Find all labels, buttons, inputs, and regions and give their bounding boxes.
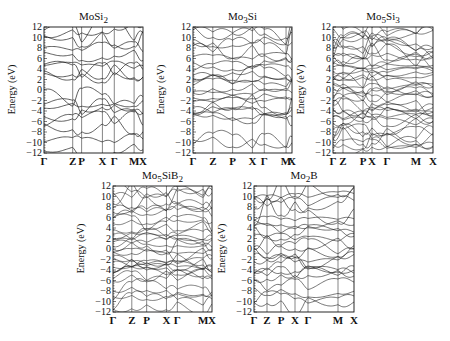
k-point-label: M	[333, 315, 343, 326]
k-point-label: X	[291, 315, 299, 326]
plot-frame	[193, 27, 292, 153]
y-tick-label: −6	[20, 117, 42, 127]
energy-band	[113, 214, 212, 231]
y-tick-label: 4	[309, 64, 331, 74]
y-tick-label: −6	[169, 117, 191, 127]
energy-band	[254, 278, 354, 291]
energy-band	[333, 72, 433, 88]
energy-band	[44, 101, 143, 109]
k-point-label: X	[368, 156, 376, 167]
energy-band	[193, 130, 292, 148]
energy-band	[113, 260, 212, 269]
energy-band	[113, 240, 212, 255]
energy-band	[193, 113, 292, 125]
k-point-label: Γ	[330, 156, 337, 167]
energy-band	[113, 266, 212, 281]
energy-band	[254, 298, 354, 314]
energy-band	[193, 80, 292, 95]
energy-band	[193, 58, 292, 71]
k-point-label: Z	[128, 315, 135, 326]
y-tick-label: −12	[89, 307, 111, 317]
y-tick-label: 10	[169, 33, 191, 43]
energy-band	[254, 252, 354, 262]
energy-band	[113, 200, 212, 218]
y-tick-label: −4	[20, 106, 42, 116]
y-tick-label: 0	[89, 244, 111, 254]
energy-band	[254, 187, 354, 213]
energy-band	[44, 31, 143, 49]
energy-band	[333, 34, 433, 53]
y-tick-label: 0	[169, 85, 191, 95]
panel-title: Mo5SiB2	[113, 169, 212, 184]
energy-band	[333, 96, 433, 111]
k-point-label: X	[350, 315, 358, 326]
k-point-label: Γ	[305, 315, 312, 326]
y-tick-label: 6	[169, 54, 191, 64]
y-tick-label: −6	[230, 276, 252, 286]
plot-frame	[254, 186, 354, 312]
energy-band	[254, 196, 354, 206]
energy-band	[113, 255, 212, 264]
energy-band	[193, 112, 292, 121]
energy-band	[254, 224, 354, 233]
energy-band	[193, 37, 292, 48]
energy-band	[113, 187, 212, 197]
energy-band	[44, 73, 143, 83]
energy-band	[113, 287, 212, 297]
energy-band	[193, 25, 292, 44]
energy-band	[254, 266, 354, 274]
energy-band	[113, 264, 212, 274]
energy-band	[254, 256, 354, 273]
energy-band	[193, 71, 292, 80]
energy-band	[333, 124, 433, 146]
k-point-label: X	[162, 315, 170, 326]
y-tick-label: 2	[169, 75, 191, 85]
k-point-label: X	[208, 315, 216, 326]
y-tick-label: 2	[309, 75, 331, 85]
energy-band	[193, 94, 292, 100]
energy-band	[113, 248, 212, 253]
energy-band	[113, 302, 212, 314]
energy-band	[333, 124, 433, 135]
energy-band	[333, 76, 433, 91]
energy-band	[333, 88, 433, 102]
energy-band	[254, 196, 354, 225]
y-tick-label: 2	[230, 234, 252, 244]
panel-title: MoSi2	[44, 10, 143, 25]
y-tick-label: −8	[89, 286, 111, 296]
energy-band	[193, 75, 292, 82]
band-plot	[0, 0, 450, 341]
y-tick-label: −4	[309, 106, 331, 116]
energy-band	[333, 53, 433, 60]
y-tick-label: 0	[230, 244, 252, 254]
k-point-label: M	[411, 156, 421, 167]
energy-band	[254, 220, 354, 229]
energy-band	[113, 205, 212, 216]
y-tick-label: −10	[230, 297, 252, 307]
band-plot	[0, 0, 450, 341]
energy-band	[333, 70, 433, 76]
y-tick-label: 4	[230, 223, 252, 233]
y-tick-label: 6	[230, 213, 252, 223]
energy-band	[44, 134, 143, 143]
y-tick-label: −6	[309, 117, 331, 127]
y-tick-label: −8	[169, 127, 191, 137]
energy-band	[254, 233, 354, 241]
y-tick-label: −12	[230, 307, 252, 317]
k-point-label: Γ	[190, 156, 197, 167]
y-tick-label: 4	[20, 64, 42, 74]
k-point-label: P	[78, 156, 85, 167]
energy-band	[44, 116, 143, 137]
energy-band	[254, 191, 354, 197]
y-tick-label: −10	[309, 138, 331, 148]
plot-frame	[333, 27, 433, 153]
energy-band	[193, 137, 292, 148]
y-tick-label: 10	[230, 192, 252, 202]
y-tick-label: 10	[20, 33, 42, 43]
energy-band	[333, 107, 433, 122]
energy-band	[333, 41, 433, 66]
energy-band	[333, 33, 433, 58]
y-axis-label: Energy (eV)	[6, 50, 17, 130]
energy-band	[44, 99, 143, 115]
panel-title: Mo3Si	[193, 10, 292, 25]
